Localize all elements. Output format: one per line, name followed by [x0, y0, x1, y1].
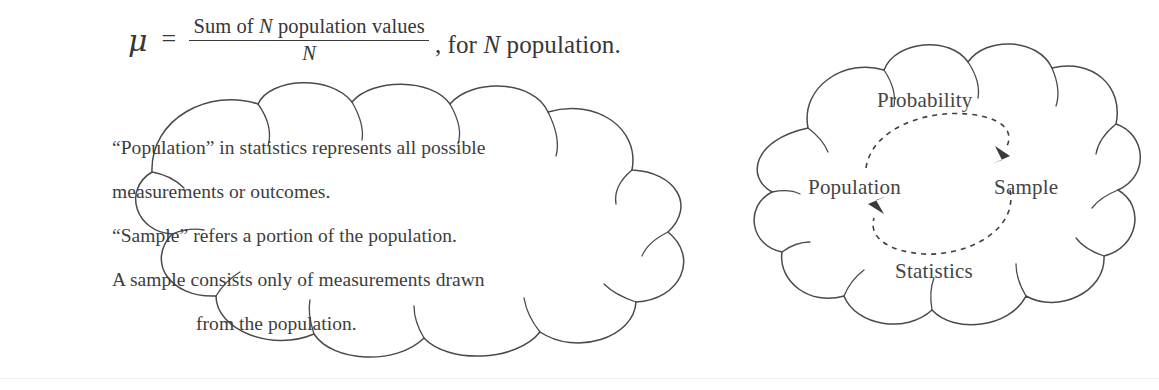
numerator-suffix: population values: [273, 15, 425, 37]
tail-prefix: , for: [435, 31, 484, 58]
tail-suffix: population.: [500, 31, 621, 58]
left-cloud-line-3: “Sample” refers a portion of the populat…: [112, 214, 582, 258]
numerator-variable: N: [259, 15, 273, 37]
mu-symbol: μ: [128, 26, 162, 56]
left-cloud-text-block: “Population” in statistics represents al…: [112, 126, 582, 346]
arrowhead-at-sample: [992, 146, 1010, 164]
left-cloud-line-2: measurements or outcomes.: [112, 170, 582, 214]
fraction-numerator: Sum of N population values: [189, 16, 429, 40]
equals-sign: =: [162, 24, 190, 54]
label-statistics: Statistics: [895, 259, 973, 284]
label-sample: Sample: [994, 175, 1058, 200]
left-cloud-line-4: A sample consists only of measurements d…: [112, 258, 582, 302]
fraction: Sum of N population values N: [189, 16, 429, 65]
mean-formula: μ = Sum of N population values N , for N…: [128, 16, 621, 65]
fraction-denominator: N: [302, 41, 316, 65]
tail-variable: N: [483, 31, 500, 58]
scan-artifact-line: [0, 378, 1159, 379]
arrow-population-to-sample: [866, 113, 1009, 168]
left-cloud-line-1: “Population” in statistics represents al…: [112, 126, 582, 170]
diagram-canvas: μ = Sum of N population values N , for N…: [0, 0, 1159, 390]
left-cloud-line-5: from the population.: [112, 302, 582, 346]
label-probability: Probability: [877, 88, 973, 113]
label-population: Population: [808, 175, 901, 200]
formula-tail: , for N population.: [429, 31, 621, 59]
numerator-prefix: Sum of: [193, 15, 259, 37]
